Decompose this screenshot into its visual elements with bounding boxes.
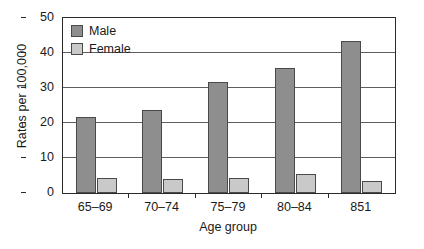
x-tick-mark (128, 193, 129, 198)
bar-group (262, 18, 328, 193)
x-tick-label: 851 (350, 199, 371, 215)
legend-item-male: Male (71, 22, 163, 39)
y-tick-mark (21, 87, 26, 88)
y-tick-mark (21, 192, 26, 193)
x-tick-mark (328, 193, 329, 198)
x-tick-label: 70–74 (144, 199, 179, 215)
legend-swatch-female-icon (71, 43, 83, 55)
y-tick-mark (21, 17, 26, 18)
y-tick-mark (21, 52, 26, 53)
bar-female-65–69 (97, 178, 117, 193)
x-tick-label: 80–84 (277, 199, 312, 215)
legend-swatch-male-icon (71, 25, 83, 37)
bar-male-70–74 (142, 110, 162, 193)
plot-inner: Male Female (63, 18, 395, 193)
x-tick-label: 65–69 (78, 199, 113, 215)
plot-area: Male Female (62, 17, 396, 194)
legend-label-female: Female (89, 42, 131, 56)
y-tick-label: 20 (26, 115, 54, 129)
bar-female-851 (362, 181, 382, 193)
x-tick-mark (195, 193, 196, 198)
y-tick-mark (21, 122, 26, 123)
y-tick-label: 50 (26, 10, 54, 24)
legend-label-male: Male (89, 24, 116, 38)
bar-male-65–69 (76, 117, 96, 193)
y-tick-label: 40 (26, 45, 54, 59)
y-tick-label: 30 (26, 80, 54, 94)
bar-female-70–74 (163, 179, 183, 193)
bar-chart: Rates per 100,000 01020304050 Male Femal… (0, 0, 424, 249)
y-tick-label: 0 (26, 185, 54, 199)
bar-male-851 (341, 41, 361, 193)
bar-group (329, 18, 395, 193)
y-axis-tick-labels: 01020304050 (26, 10, 54, 194)
x-axis-tick-labels: 65–6970–7475–7980–84851 (62, 199, 394, 217)
y-tick-mark (21, 157, 26, 158)
bar-female-80–84 (296, 174, 316, 193)
x-axis-title: Age group (62, 219, 394, 235)
legend-item-female: Female (71, 40, 163, 57)
bar-group (196, 18, 262, 193)
bar-male-75–79 (208, 82, 228, 193)
bar-female-75–79 (229, 178, 249, 193)
x-tick-mark (261, 193, 262, 198)
x-tick-label: 75–79 (211, 199, 246, 215)
bar-male-80–84 (275, 68, 295, 193)
y-tick-label: 10 (26, 150, 54, 164)
legend: Male Female (71, 22, 163, 58)
